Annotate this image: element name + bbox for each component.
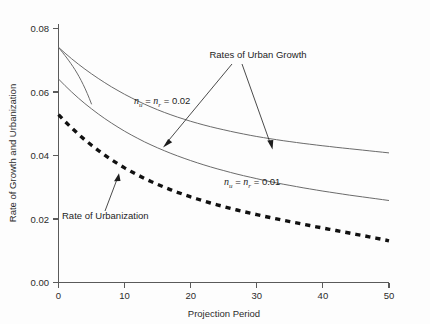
curve-urban-growth-002 [59, 47, 92, 104]
x-tick-label-50: 50 [384, 290, 395, 301]
y-tick-label-0.08: 0.08 [31, 23, 50, 34]
leader-rate-urbanization [105, 173, 121, 211]
label-nu-nr-002: nu = nr = 0.02 [134, 95, 190, 109]
value-001: = 0.01 [251, 176, 280, 187]
y-tick-label-0.06: 0.06 [31, 87, 50, 98]
chart-figure: 0.08 0.06 0.04 0.02 0.00 0 10 20 30 40 5… [0, 0, 430, 324]
curve-series-002 [59, 47, 390, 153]
x-tick-label-10: 10 [119, 290, 130, 301]
x-tick-label-0: 0 [56, 290, 61, 301]
leader-line-right [242, 64, 271, 144]
label-nu-nr-001: nu = nr = 0.01 [224, 176, 280, 190]
y-tick-label-0.02: 0.02 [31, 214, 50, 225]
eq-sep-001: = [233, 176, 244, 187]
value-002: = 0.02 [161, 95, 190, 106]
label-rates-of-urban-growth: Rates of Urban Growth [209, 49, 306, 60]
y-tick-label-0.04: 0.04 [31, 150, 50, 161]
leader-line-urbanization [105, 178, 118, 211]
x-axis-title: Projection Period [188, 308, 260, 319]
x-tick-label-20: 20 [185, 290, 196, 301]
y-axis-title: Rate of Growth and Urbanization [7, 84, 18, 222]
y-tick-label-0.00: 0.00 [31, 277, 50, 288]
eq-sep-002: = [143, 95, 154, 106]
arrow-head-urbanization-icon [114, 173, 121, 181]
arrow-head-right-icon [267, 140, 273, 150]
chart-canvas: 0.08 0.06 0.04 0.02 0.00 0 10 20 30 40 5… [0, 0, 430, 324]
x-tick-label-40: 40 [318, 290, 329, 301]
x-tick-label-30: 30 [252, 290, 263, 301]
arrow-head-left-icon [163, 139, 172, 147]
label-rate-of-urbanization: Rate of Urbanization [62, 210, 149, 221]
x-ticks-group: 0 10 20 30 40 50 [56, 283, 394, 302]
y-ticks-group: 0.08 0.06 0.04 0.02 0.00 [31, 23, 59, 288]
axes-group [59, 24, 390, 283]
